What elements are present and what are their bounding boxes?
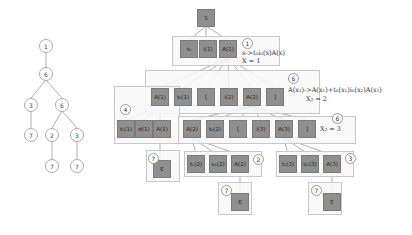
node-l2: A(1) [151,88,169,106]
node-l3: t₀(2) [206,120,224,138]
node-leaf: E [231,193,249,211]
node-l3: ] [298,120,316,138]
node-l3: i(3) [252,120,270,138]
tree-node: 7 [24,128,38,142]
node-l3: A(1) [153,120,171,138]
node-l3: [ [229,120,247,138]
node-l2: ] [266,88,284,106]
node-l2: i(2) [220,88,238,106]
node-l3: t₁(1) [117,120,135,138]
tree-node: 3 [24,98,38,112]
node-l2: t₀(1) [174,88,192,106]
tree-node: 2 [45,128,59,142]
step-badge: 4 [120,104,131,115]
value-annotation: X₂ = 2 [306,95,327,104]
tree-node: 1 [39,39,53,53]
tree-node: 7 [70,159,84,173]
node-l1: i(1) [199,40,217,58]
node-l3: A(2) [183,120,201,138]
node-l3: d(1) [135,120,153,138]
step-badge: 6 [332,113,343,124]
step-badge: 7 [311,185,322,196]
tree-node: 7 [45,159,59,173]
node-l4: A(3) [323,155,341,173]
node-leaf: E [323,193,341,211]
node-root: S [197,9,215,27]
step-badge: 2 [253,154,264,165]
step-badge: 6 [288,73,299,84]
node-l4: v₁(2) [209,155,227,173]
rule-annotation: A(x₁)->A(x₁)+t₀(x₁)i₀(x₂)A(x₂) [288,86,382,95]
node-l4: t₁(2) [187,155,205,173]
tree-node: 3 [70,128,84,142]
value-annotation: X = 1 [242,57,260,66]
tree-node: 6 [55,98,69,112]
step-badge: 3 [345,153,356,164]
node-l1: A(1) [219,40,237,58]
node-l3: A(3) [275,120,293,138]
tree-node: 6 [39,67,53,81]
step-badge: 7 [221,185,232,196]
node-l2: [ [197,88,215,106]
step-badge: 1 [242,38,253,49]
value-annotation: X₂ = 3 [320,125,341,134]
node-l4: t₁(3) [279,155,297,173]
node-l4: o₁(3) [301,155,319,173]
node-l4: A(2) [231,155,249,173]
step-badge: 7 [148,153,159,164]
node-l2: A(2) [243,88,261,106]
node-l1: t₀ [180,40,198,58]
